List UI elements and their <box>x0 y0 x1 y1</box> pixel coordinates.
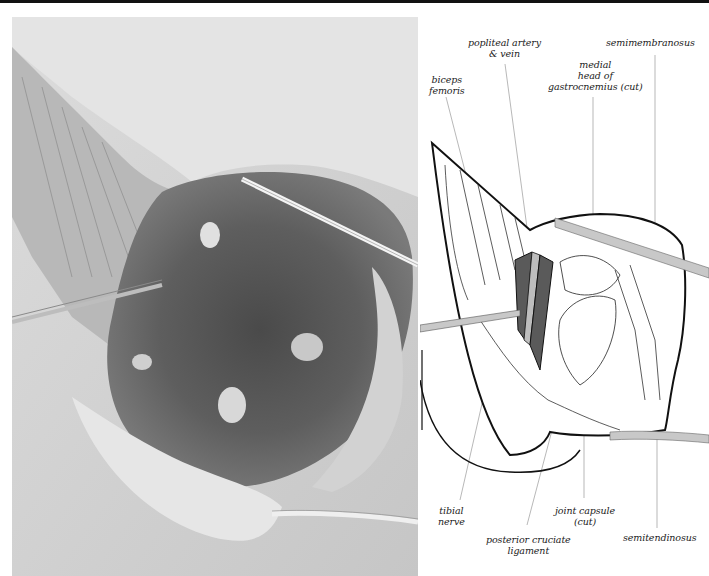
label-line: joint capsule <box>555 505 615 516</box>
label-line: femoris <box>429 85 465 96</box>
label-biceps-femoris: biceps femoris <box>429 74 465 96</box>
anatomical-diagram: popliteal artery & vein semimembranosus … <box>420 0 709 576</box>
label-popliteal-artery-vein: popliteal artery & vein <box>468 37 541 59</box>
photo-illustration <box>12 17 418 576</box>
label-tibial-nerve: tibial nerve <box>438 505 465 527</box>
surgical-photo <box>12 17 418 576</box>
label-semimembranosus: semimembranosus <box>606 37 695 48</box>
label-semitendinosus: semitendinosus <box>623 532 697 543</box>
label-line: gastrocnemius (cut) <box>548 81 643 92</box>
label-joint-capsule: joint capsule (cut) <box>555 505 615 527</box>
label-line: biceps <box>429 74 465 85</box>
label-line: semitendinosus <box>623 532 697 543</box>
label-medial-head-gastrocnemius: medial head of gastrocnemius (cut) <box>548 59 643 92</box>
label-posterior-cruciate-ligament: posterior cruciate ligament <box>486 534 571 556</box>
label-line: (cut) <box>555 516 615 527</box>
label-line: head of <box>548 70 643 81</box>
label-line: semimembranosus <box>606 37 695 48</box>
label-line: & vein <box>468 48 541 59</box>
label-line: nerve <box>438 516 465 527</box>
label-line: tibial <box>438 505 465 516</box>
label-line: ligament <box>486 545 571 556</box>
label-line: medial <box>548 59 643 70</box>
label-line: popliteal artery <box>468 37 541 48</box>
label-line: posterior cruciate <box>486 534 571 545</box>
